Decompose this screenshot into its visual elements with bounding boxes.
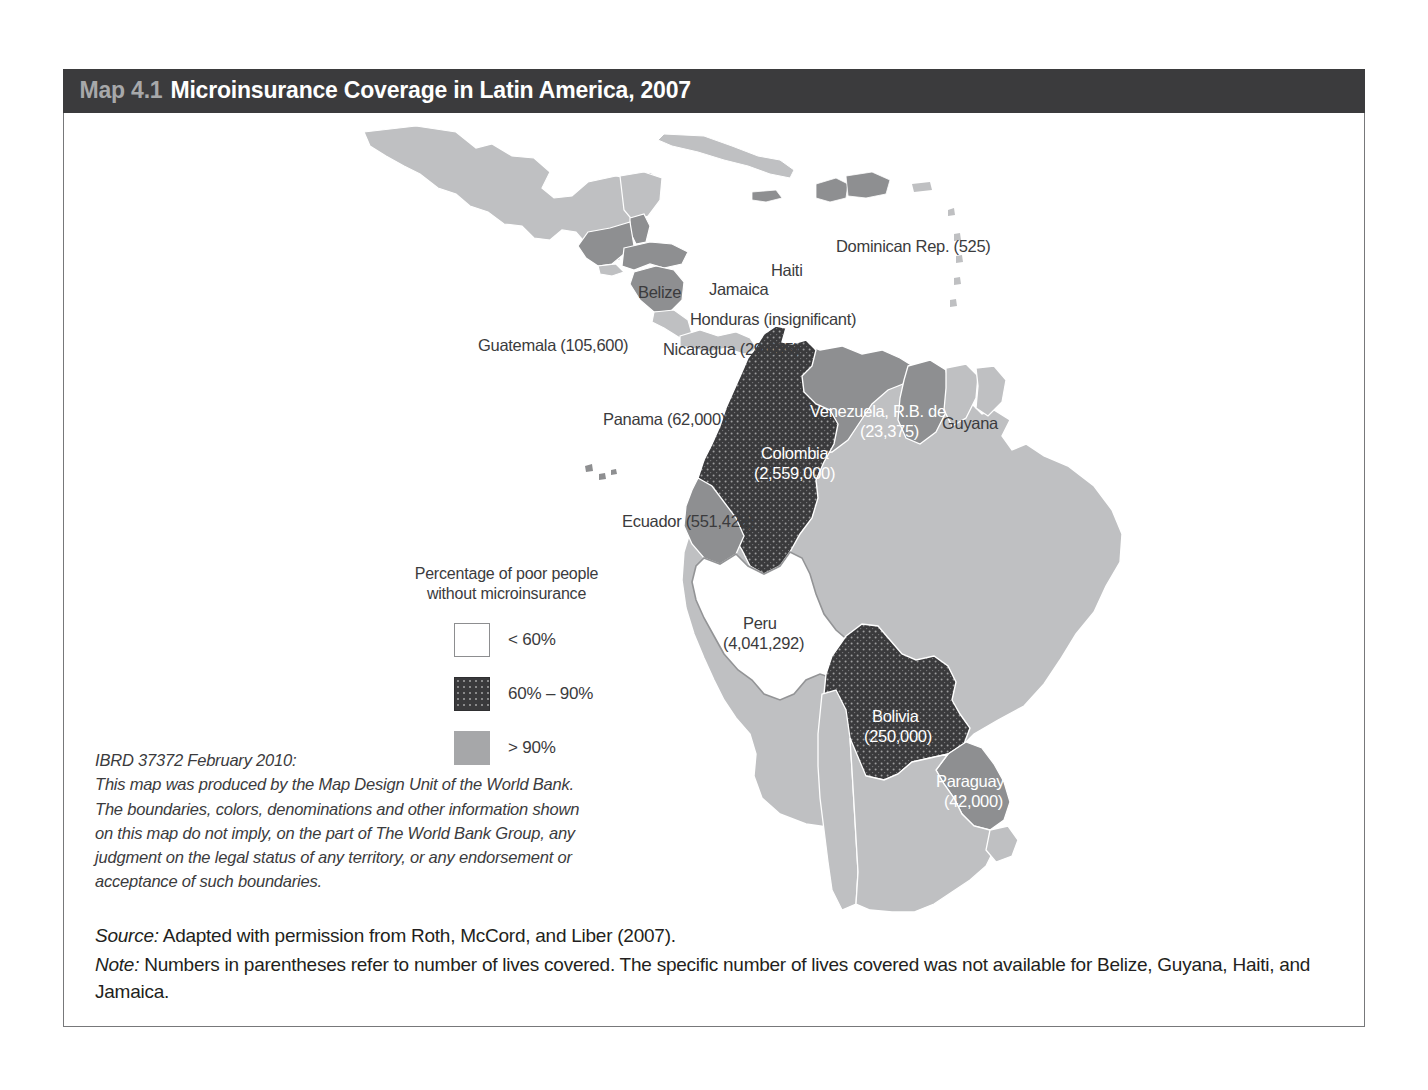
ibrd-line-1: IBRD 37372 February 2010: — [95, 748, 735, 772]
label-paraguay-line1: Paraguay — [936, 772, 1005, 790]
legend-item-mid: 60% – 90% — [404, 677, 634, 711]
source-text: Adapted with permission from Roth, McCor… — [159, 925, 676, 946]
ibrd-line-2: This map was produced by the Map Design … — [95, 772, 735, 796]
source-line: Source: Adapted with permission from Rot… — [95, 923, 1339, 950]
label-peru-line1: Peru — [743, 614, 777, 632]
label-belize: Belize — [638, 283, 681, 301]
label-venezuela-line1: Venezuela, R.B. de — [810, 402, 946, 420]
note-text: Numbers in parentheses refer to number o… — [95, 954, 1310, 1002]
label-bolivia-line1: Bolivia — [872, 707, 920, 725]
label-haiti: Haiti — [771, 261, 803, 279]
legend-label-mid: 60% – 90% — [508, 684, 593, 704]
label-honduras: Honduras (insignificant) — [690, 310, 856, 328]
source-and-note-block: Source: Adapted with permission from Rot… — [95, 923, 1339, 1008]
figure-title: Microinsurance Coverage in Latin America… — [170, 77, 690, 104]
label-peru-line2: (4,041,292) — [723, 634, 804, 652]
label-colombia-line2: (2,559,000) — [754, 464, 835, 482]
ibrd-line-3: The boundaries, colors, denominations an… — [95, 797, 735, 821]
map-figure-frame: Map 4.1 Microinsurance Coverage in Latin… — [63, 69, 1365, 1027]
label-ecuador: Ecuador (551,422) — [622, 512, 754, 530]
figure-number: Map 4.1 — [80, 77, 163, 104]
legend-item-low: < 60% — [404, 623, 634, 657]
note-line: Note: Numbers in parentheses refer to nu… — [95, 952, 1339, 1006]
label-venezuela-line2: (23,375) — [860, 422, 919, 440]
label-bolivia-line2: (250,000) — [864, 727, 932, 745]
map-legend: Percentage of poor people without microi… — [404, 564, 634, 765]
note-lead: Note: — [95, 954, 139, 975]
legend-label-low: < 60% — [508, 630, 556, 650]
label-jamaica: Jamaica — [709, 280, 769, 298]
legend-title-line2: without microinsurance — [404, 584, 609, 604]
ibrd-disclaimer: IBRD 37372 February 2010: This map was p… — [95, 748, 735, 894]
source-lead: Source: — [95, 925, 159, 946]
ibrd-line-5: judgment on the legal status of any terr… — [95, 845, 735, 869]
figure-title-bar: Map 4.1 Microinsurance Coverage in Latin… — [63, 69, 1365, 113]
label-colombia-line1: Colombia — [761, 444, 829, 462]
label-guatemala: Guatemala (105,600) — [478, 336, 628, 354]
ibrd-line-6: acceptance of such boundaries. — [95, 869, 735, 893]
ibrd-line-4: on this map do not imply, on the part of… — [95, 821, 735, 845]
label-guyana: Guyana — [942, 414, 999, 432]
legend-swatch-low — [454, 623, 490, 657]
label-paraguay-line2: (42,000) — [944, 792, 1003, 810]
legend-title-line1: Percentage of poor people — [404, 564, 609, 584]
legend-swatch-mid — [454, 677, 490, 711]
label-dominican-republic: Dominican Rep. (525) — [836, 237, 991, 255]
label-nicaragua: Nicaragua (29,035) — [663, 340, 799, 358]
map-canvas: Dominican Rep. (525) Haiti Belize Jamaic… — [64, 114, 1363, 914]
label-panama: Panama (62,000) — [603, 410, 726, 428]
legend-title: Percentage of poor people without microi… — [404, 564, 609, 603]
